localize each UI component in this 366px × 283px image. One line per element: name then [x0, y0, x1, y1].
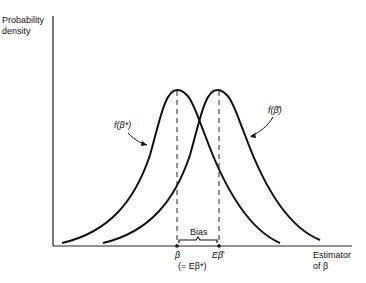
label-f-beta-star: f(β*) — [114, 120, 131, 130]
x-axis-label-1: Estimator — [313, 250, 351, 260]
x-axis-label-2: of β — [313, 261, 328, 271]
bias-label: Bias — [190, 227, 208, 237]
beta-tick-label: β — [175, 250, 180, 260]
label-f-beta-hat: f(β̂) — [268, 105, 282, 115]
point-e-beta-hat — [217, 244, 221, 248]
beta-eq-label: (= Eβ*) — [178, 261, 206, 271]
y-axis-label-2: density — [2, 26, 31, 36]
e-beta-hat-tick-label: Eβ̂ — [212, 250, 223, 260]
arrow-f-beta-hat — [251, 117, 273, 136]
diagram-canvas — [0, 0, 366, 283]
point-beta — [175, 244, 179, 248]
bias-brace — [179, 237, 217, 243]
curve-f-beta-star — [62, 90, 280, 243]
curve-f-beta-hat — [103, 90, 320, 243]
y-axis-label-1: Probability — [2, 15, 44, 25]
